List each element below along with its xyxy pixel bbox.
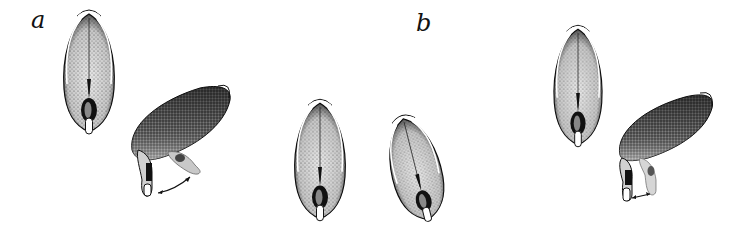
duck-b-top-view-1 <box>295 99 346 221</box>
duck-b-head-dip <box>619 93 712 201</box>
duck-b-top-view-2 <box>378 109 453 227</box>
duck-illustrations <box>0 0 737 230</box>
duck-a-head-dip <box>132 85 231 196</box>
figure-canvas: a b <box>0 0 737 230</box>
duck-a-top-view <box>64 10 115 134</box>
duck-b-top-view-3 <box>554 25 602 147</box>
